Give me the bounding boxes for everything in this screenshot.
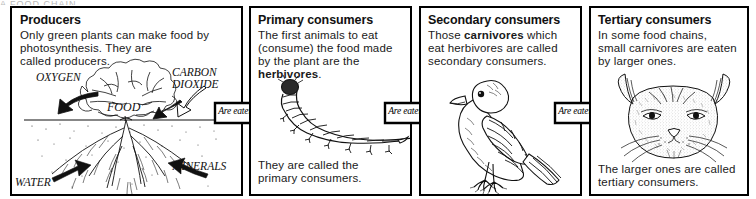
cat-head-illustration — [615, 68, 733, 160]
panel-primary-consumers-footer-line-2: primary consumers. — [258, 172, 362, 185]
panel-secondary-consumers-body-line-2: eat herbivores are called — [428, 42, 558, 55]
panel-secondary-consumers-title: Secondary consumers — [428, 13, 560, 27]
cut-off-heading: A FOOD CHAIN — [0, 0, 756, 5]
food-chain-diagram: A FOOD CHAIN Producers Only green plants… — [0, 0, 756, 199]
panel-producers-body-line-1: Only green plants can make food by — [20, 29, 209, 42]
panel-secondary-consumers-body-line-3: secondary consumers. — [428, 55, 547, 68]
panel-primary-consumers-body-line-2: (consume) the food made — [258, 42, 393, 55]
panel-tertiary-consumers-body-line-2: small carnivores are eaten — [598, 42, 737, 55]
panel-secondary-consumers-keyword: carnivores — [464, 29, 524, 41]
panel-producers: Producers Only green plants can make foo… — [10, 6, 243, 196]
panel-tertiary-consumers-body-line-3: by larger ones. — [598, 55, 676, 68]
panel-primary-consumers-body-line-1: The first animals to eat — [258, 29, 378, 42]
panel-secondary-consumers-body-lead: Those — [428, 29, 464, 41]
plant-with-roots-illustration — [12, 58, 241, 194]
panel-primary-consumers-title: Primary consumers — [258, 13, 373, 27]
panel-tertiary-consumers: Tertiary consumers In some food chains, … — [589, 6, 749, 196]
panel-tertiary-consumers-footer-line-1: The larger ones are called — [598, 163, 736, 176]
panel-primary-consumers-body-line-3: by the plant are the — [258, 55, 359, 68]
panel-tertiary-consumers-body-line-1: In some food chains, — [598, 29, 707, 42]
panel-secondary-consumers-body-tail: which — [524, 29, 558, 41]
panel-tertiary-consumers-title: Tertiary consumers — [598, 13, 711, 27]
panel-producers-body-line-2: photosynthesis. They are — [20, 42, 152, 55]
panel-primary-consumers-footer-line-1: They are called the — [258, 159, 359, 172]
panel-tertiary-consumers-footer-line-2: tertiary consumers. — [598, 176, 699, 189]
panel-producers-title: Producers — [20, 13, 81, 27]
